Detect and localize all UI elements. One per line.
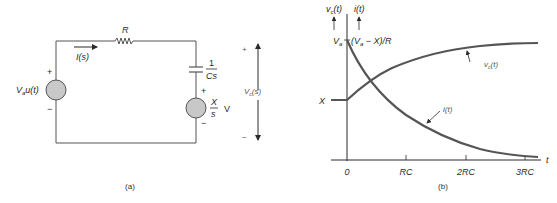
i-curve-label: i(t) [443,105,453,114]
t-axis-label: t [546,155,549,165]
tick-label-0: 0 [344,167,349,177]
x-level-label: X [318,96,326,106]
caption-b: (b) [438,182,448,191]
tick-label-rc: RC [400,167,413,177]
wire-right-bottom [56,100,196,143]
step-voltage-source [46,80,66,100]
resistor [115,38,135,44]
vc-callout-arrow [467,51,470,62]
resistor-label: R [122,25,129,35]
source-right-plus: + [201,86,206,96]
capacitor-num: 1 [209,58,214,68]
i-curve [347,40,538,157]
waveform-panel: 0 RC 2RC 3RC t vc(t) i(t) Va (Va − X)/R … [318,4,549,191]
caption-a: (a) [125,182,135,191]
vc-minus: − [242,133,247,142]
initial-voltage-source [186,98,206,118]
vc-plus: + [242,45,247,54]
vc-curve-label: vc(t) [484,60,498,70]
i0-label: (Va − X)/R [351,36,392,47]
capacitor-den: Cs [206,71,217,81]
circuit-panel: I(s) R + − Vau(t) 1 Cs + − X s V + − Vc(… [16,25,262,191]
i-callout-arrow [427,111,440,123]
source-left-plus: + [47,67,52,77]
va-label: Va [333,36,343,47]
source-left-minus: − [47,104,52,114]
wire-top-right [135,41,196,67]
tick-label-3rc: 3RC [516,167,535,177]
figure: I(s) R + − Vau(t) 1 Cs + − X s V + − Vc(… [0,0,557,203]
source-right-minus: − [201,118,206,128]
source-right-num: X [210,97,218,107]
tick-label-2rc: 2RC [456,167,476,177]
y-label-vc: vc(t) [326,4,342,15]
y-label-i: i(t) [354,4,365,14]
source-right-unit: V [224,104,230,114]
vc-label: Vc(s) [244,87,262,97]
source-left-label: Vau(t) [16,85,39,96]
source-right-den: s [211,109,216,119]
current-label: I(s) [76,52,89,62]
vc-curve [331,43,538,100]
